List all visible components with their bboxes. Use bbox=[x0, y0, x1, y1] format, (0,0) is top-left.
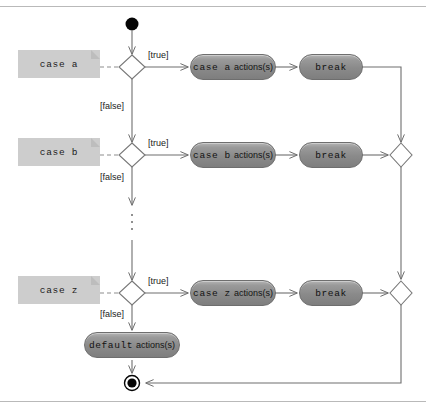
activity-diagram-canvas: case a case b case z case a actions(s) b… bbox=[0, 0, 426, 409]
note-case-a-label: case a bbox=[18, 59, 100, 70]
note-case-a: case a bbox=[18, 50, 100, 78]
action-break-2-label: break bbox=[315, 150, 347, 161]
note-case-b-label: case b bbox=[18, 147, 100, 158]
action-default-suffix: actions(s) bbox=[136, 340, 175, 350]
ellipsis-dot bbox=[131, 214, 133, 216]
action-case-a: case a actions(s) bbox=[190, 54, 276, 80]
action-break-2: break bbox=[299, 142, 363, 168]
action-case-b-suffix: actions(s) bbox=[234, 150, 273, 160]
action-break-1: break bbox=[299, 54, 363, 80]
action-case-a-suffix: actions(s) bbox=[234, 62, 273, 72]
action-case-z-keyword: case z bbox=[193, 288, 231, 299]
edge-break-1-to-merge-upper bbox=[362, 67, 401, 142]
note-case-b: case b bbox=[18, 138, 100, 166]
action-break-3: break bbox=[299, 280, 363, 306]
guard-label-false-1: [false] bbox=[100, 101, 124, 111]
guard-label-false-3: [false] bbox=[100, 309, 124, 319]
decision-node-1 bbox=[119, 55, 145, 79]
action-break-1-label: break bbox=[315, 62, 347, 73]
action-case-b-keyword: case b bbox=[193, 150, 231, 161]
guard-label-true-2: [true] bbox=[148, 138, 169, 148]
guard-label-false-2: [false] bbox=[100, 172, 124, 182]
final-node-core bbox=[127, 378, 136, 387]
initial-node bbox=[126, 18, 139, 31]
action-case-a-keyword: case a bbox=[193, 62, 231, 73]
guard-label-true-3: [true] bbox=[148, 276, 169, 286]
guard-label-true-1: [true] bbox=[148, 50, 169, 60]
action-case-z-suffix: actions(s) bbox=[234, 288, 273, 298]
action-default-keyword: default bbox=[89, 340, 133, 351]
action-break-3-label: break bbox=[315, 288, 347, 299]
action-default: default actions(s) bbox=[84, 332, 180, 358]
ellipsis-dot bbox=[131, 221, 133, 223]
edge-merge-lower-to-final bbox=[146, 305, 401, 383]
ellipsis-dot bbox=[131, 228, 133, 230]
decision-node-2 bbox=[119, 143, 145, 167]
merge-node-lower bbox=[390, 281, 412, 305]
note-case-z: case z bbox=[18, 276, 100, 304]
merge-node-upper bbox=[390, 143, 412, 167]
action-case-b: case b actions(s) bbox=[190, 142, 276, 168]
action-case-z: case z actions(s) bbox=[190, 280, 276, 306]
decision-node-3 bbox=[119, 281, 145, 305]
note-case-z-label: case z bbox=[18, 285, 100, 296]
